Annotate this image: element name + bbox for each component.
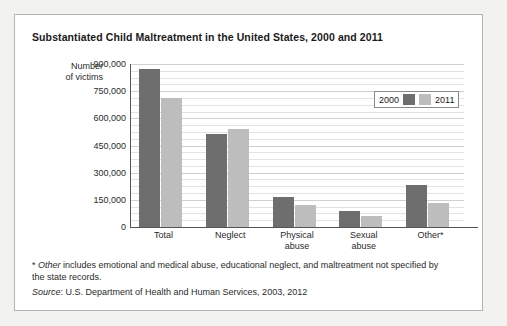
y-axis-tick-labels: 900,000750,000600,000450,000300,000150,0… [66, 64, 126, 227]
bar-2000 [206, 134, 227, 227]
bar-group [397, 64, 464, 227]
bar-2000 [139, 69, 160, 227]
footnote: * Other includes emotional and medical a… [32, 259, 452, 283]
legend-swatch-2011 [419, 94, 431, 105]
y-axis-tick-label: 900,000 [68, 59, 126, 69]
source-note: Source: U.S. Department of Health and Hu… [32, 287, 452, 297]
bar-2011 [295, 205, 316, 227]
legend-label-2011: 2011 [435, 95, 454, 105]
source-label: Source [32, 287, 61, 297]
y-axis-tick-label: 300,000 [68, 168, 126, 178]
bar-2000 [406, 185, 427, 227]
category-label-line2: abuse [319, 241, 409, 252]
source-text: : U.S. Department of Health and Human Se… [61, 287, 308, 297]
bar-2011 [428, 203, 449, 227]
x-axis-category-label: Other* [386, 230, 476, 241]
bar-2011 [161, 98, 182, 227]
footnote-emphasis: Other [38, 260, 61, 270]
y-axis-tick-label: 450,000 [68, 141, 126, 151]
bar-group [330, 64, 397, 227]
category-label-line1: Other* [386, 230, 476, 241]
footnote-marker: * [32, 260, 36, 270]
bars-layer: TotalNeglectPhysicalabuseSexualabuseOthe… [130, 64, 464, 227]
chart-title: Substantiated Child Maltreatment in the … [32, 31, 383, 43]
bar-2000 [339, 211, 360, 227]
footnote-text: includes emotional and medical abuse, ed… [32, 260, 438, 282]
y-axis-tick-label: 150,000 [68, 195, 126, 205]
legend-swatch-2000 [403, 94, 415, 105]
bar-2011 [228, 129, 249, 227]
bar-2000 [273, 197, 294, 227]
chart-legend: 2000 2011 [374, 91, 459, 108]
bar-group [197, 64, 264, 227]
y-axis-tick-label: 0 [68, 222, 126, 232]
chart-figure-panel: Substantiated Child Maltreatment in the … [14, 14, 483, 311]
y-axis-tick-label: 600,000 [68, 113, 126, 123]
bar-group [264, 64, 331, 227]
y-axis-tick-label: 750,000 [68, 86, 126, 96]
bar-group [130, 64, 197, 227]
bar-2011 [361, 216, 382, 227]
legend-label-2000: 2000 [379, 95, 399, 105]
x-axis-line [130, 227, 478, 228]
